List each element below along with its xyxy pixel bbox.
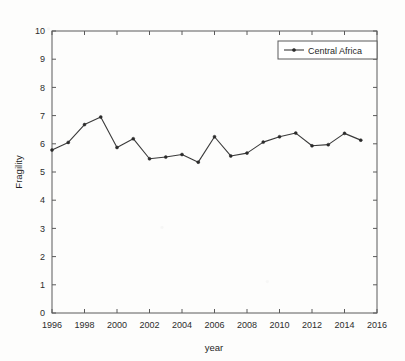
legend-entry-label: Central Africa (308, 46, 362, 56)
data-point (197, 161, 200, 164)
y-tick-label: 10 (35, 26, 45, 36)
data-point (116, 146, 119, 149)
chart-legend[interactable]: Central Africa (278, 41, 377, 59)
data-point (148, 157, 151, 160)
y-axis-title: Fragility (13, 155, 24, 189)
series-group (51, 116, 363, 164)
data-point (278, 135, 281, 138)
data-point (67, 141, 70, 144)
data-point (51, 149, 54, 152)
y-tick-label: 4 (40, 195, 45, 205)
data-point (83, 123, 86, 126)
x-tick-label: 2004 (172, 320, 192, 330)
data-point (229, 154, 232, 157)
x-tick-label: 2010 (269, 320, 289, 330)
y-tick-label: 7 (40, 111, 45, 121)
y-tick-label: 6 (40, 139, 45, 149)
plot-frame (52, 31, 377, 313)
y-tick-label: 9 (40, 54, 45, 64)
data-point (343, 132, 346, 135)
chart-page: 012345678910 199619982000200220042006200… (0, 0, 405, 361)
x-tick-label: 2012 (302, 320, 322, 330)
data-point (311, 144, 314, 147)
data-point (181, 153, 184, 156)
data-point (294, 132, 297, 135)
chart-svg: 012345678910 199619982000200220042006200… (0, 0, 405, 361)
x-axis-title: year (205, 342, 223, 353)
data-point (359, 139, 362, 142)
x-tick-label: 2006 (204, 320, 224, 330)
x-tick-label: 1996 (42, 320, 62, 330)
y-tick-label: 8 (40, 83, 45, 93)
data-point (246, 152, 249, 155)
data-point (213, 135, 216, 138)
data-point (164, 156, 167, 159)
y-tick-label: 1 (40, 280, 45, 290)
data-point (262, 141, 265, 144)
line-chart: 012345678910 199619982000200220042006200… (0, 0, 405, 361)
y-tick-label: 0 (40, 308, 45, 318)
x-tick-label: 2016 (367, 320, 387, 330)
y-tick-label: 5 (40, 167, 45, 177)
y-tick-label: 2 (40, 252, 45, 262)
series-line-central-africa (52, 117, 361, 162)
x-axis: 1996199820002002200420062008201020122014… (42, 31, 387, 330)
y-axis: 012345678910 (35, 26, 377, 318)
data-point (327, 143, 330, 146)
data-point (99, 116, 102, 119)
x-tick-label: 1998 (74, 320, 94, 330)
x-tick-label: 2008 (237, 320, 257, 330)
legend-sample-marker (292, 48, 295, 51)
x-tick-label: 2000 (107, 320, 127, 330)
data-point (132, 137, 135, 140)
x-tick-label: 2014 (334, 320, 354, 330)
y-tick-label: 3 (40, 224, 45, 234)
x-tick-label: 2002 (139, 320, 159, 330)
